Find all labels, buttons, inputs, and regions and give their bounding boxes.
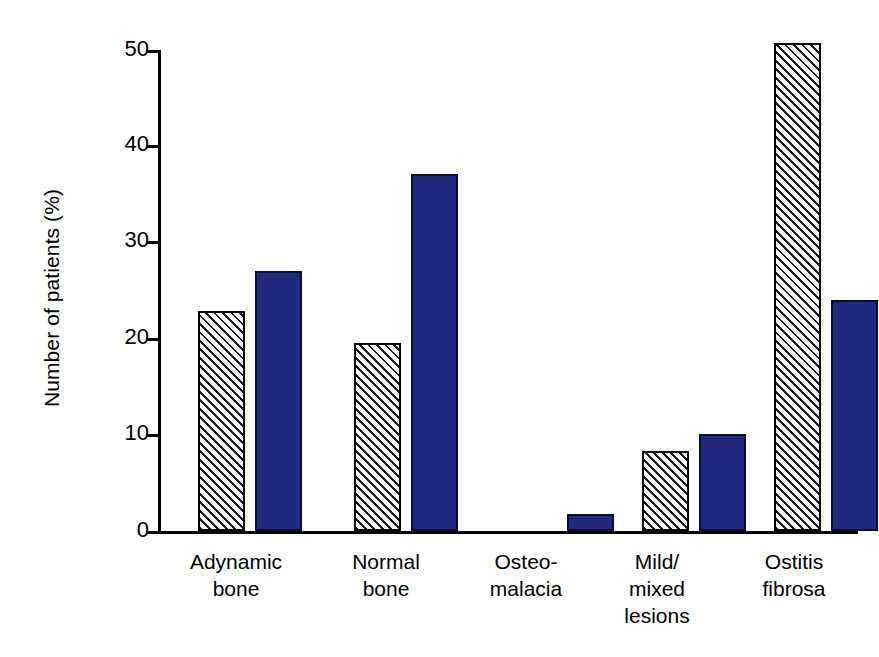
- x-axis-line: [158, 531, 858, 534]
- bar-hatched-1: [354, 343, 401, 531]
- bar-solid-navy-4: [831, 300, 878, 531]
- bar-solid-navy-1: [411, 174, 458, 531]
- y-tick-label: 40: [125, 132, 149, 156]
- bar-chart: Number of patients (%) 0 10 20 30 40 50: [0, 0, 879, 657]
- y-tick-label: 50: [125, 37, 149, 61]
- y-axis-label: Number of patients (%): [40, 118, 64, 478]
- y-axis-line: [158, 50, 161, 534]
- category-label-mild-mixed-lesions: Mild/ mixed lesions: [582, 548, 732, 629]
- category-label-ostitis-fibrosa: Ostitis fibrosa: [714, 548, 874, 602]
- y-tick-label: 30: [125, 228, 149, 252]
- bar-solid-navy-0: [255, 271, 302, 531]
- plot-area: 0 10 20 30 40 50 Adynamic bone Normal bo…: [158, 40, 858, 533]
- category-label-normal-bone: Normal bone: [306, 548, 466, 602]
- bar-hatched-0: [198, 311, 245, 531]
- y-tick-label: 10: [125, 421, 149, 445]
- y-tick-label: 20: [125, 325, 149, 349]
- y-tick-label: 0: [137, 518, 149, 542]
- bar-solid-navy-3: [699, 434, 746, 531]
- bar-hatched-3: [642, 451, 689, 531]
- category-label-adynamic-bone: Adynamic bone: [146, 548, 326, 602]
- bar-hatched-4: [774, 43, 821, 531]
- bar-solid-navy-2: [567, 514, 614, 531]
